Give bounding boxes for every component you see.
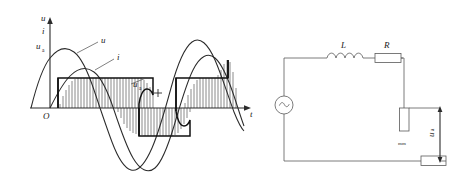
y-axis	[47, 17, 53, 108]
curve-label-ua-subtext: a	[139, 85, 142, 91]
ac-source	[275, 96, 293, 114]
circuit-panel: L R mm	[275, 40, 446, 166]
curve-label-ua-text: u	[133, 79, 138, 89]
curve-label-u: u	[77, 35, 106, 53]
thyristor-label: mm	[398, 141, 406, 146]
origin-label: O	[43, 111, 50, 121]
ua-edges	[58, 60, 228, 136]
inductor-label: L	[340, 40, 346, 50]
curve-ua-output	[58, 60, 228, 136]
curve-i	[50, 55, 244, 170]
peak-label-ua: u a	[36, 41, 45, 53]
axis-label-i: i	[42, 26, 45, 36]
waveform-panel: u i u a O t u i u a	[30, 13, 253, 171]
curve-label-u-text: u	[101, 35, 106, 45]
resistor-R	[375, 54, 403, 63]
curve-label-i: i	[95, 52, 120, 70]
figure-root: u i u a O t u i u a	[0, 0, 460, 188]
peak-label-ua-sub: a	[42, 47, 45, 53]
thyristor-element	[400, 108, 410, 131]
resistor-label: R	[383, 40, 390, 50]
axis-label-t: t	[250, 109, 253, 119]
output-voltage-label-sub: a	[429, 128, 435, 131]
plus-annotation	[154, 89, 162, 97]
peak-label-ua-main: u	[36, 41, 41, 51]
curve-label-i-text: i	[117, 52, 120, 62]
output-voltage-label: u a	[426, 128, 436, 137]
axis-label-u: u	[41, 13, 46, 23]
output-voltage-label-main: u	[426, 132, 436, 137]
inductor-L	[327, 53, 375, 58]
